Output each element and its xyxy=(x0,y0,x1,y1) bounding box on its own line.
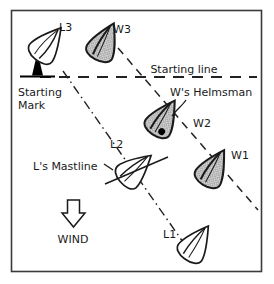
label-L3: L3 xyxy=(59,21,72,34)
label-L2: L2 xyxy=(110,138,123,151)
label-W2: W2 xyxy=(193,117,211,130)
label-W1: W1 xyxy=(231,149,249,162)
label-starting-mark-line1: Starting xyxy=(18,86,62,99)
diagram-canvas: L3 W3 Starting line Starting Mark W's He… xyxy=(0,0,274,284)
label-ws-helmsman: W's Helmsman xyxy=(170,86,252,99)
label-L1: L1 xyxy=(163,228,176,241)
label-starting-line: Starting line xyxy=(150,63,217,76)
label-starting-mark-line2: Mark xyxy=(18,99,46,112)
sailing-start-diagram: L3 W3 Starting line Starting Mark W's He… xyxy=(0,0,274,284)
label-ls-mastline: L's Mastline xyxy=(33,160,98,173)
label-W3: W3 xyxy=(113,23,131,36)
label-wind: WIND xyxy=(58,233,89,246)
